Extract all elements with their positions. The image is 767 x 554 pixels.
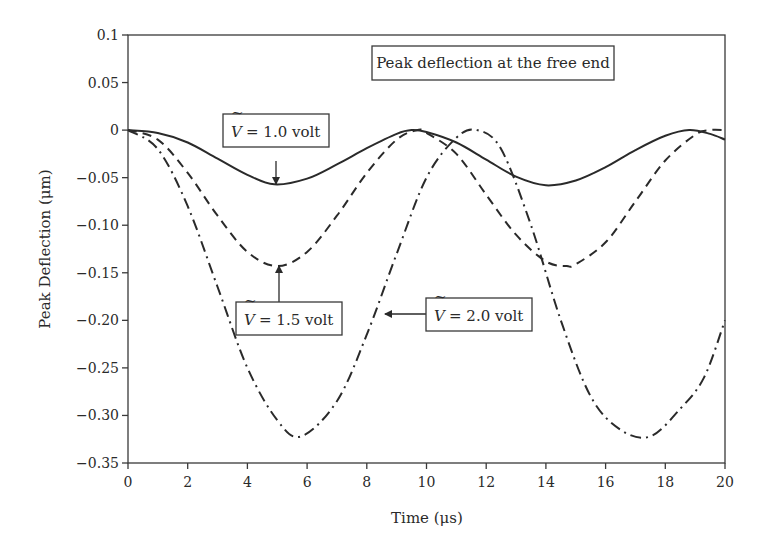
annotation-label: = 2.0 volt [449, 307, 523, 325]
x-tick-label: 4 [243, 474, 252, 490]
annotation-1-0-volt: ~ V = 1.0 volt [223, 104, 329, 184]
series-1-0-volt-line [128, 130, 725, 185]
series-2-0-volt-line [128, 129, 725, 437]
x-tick-label: 10 [418, 474, 436, 490]
deflection-chart: 0.10.050−0.05−0.10−0.15−0.20−0.25−0.30−0… [0, 0, 767, 554]
annotation-label: = 1.0 volt [246, 123, 320, 141]
x-tick-label: 8 [362, 474, 371, 490]
y-tick-label: 0 [110, 122, 119, 138]
plot-frame [128, 35, 725, 463]
x-tick-label: 18 [656, 474, 674, 490]
annotation-2-0-volt: ~ V = 2.0 volt [385, 288, 532, 331]
annotation-label: = 1.5 volt [259, 311, 333, 329]
y-tick-label: 0.1 [97, 27, 119, 43]
y-tick-label: 0.05 [88, 75, 119, 91]
y-axis: 0.10.050−0.05−0.10−0.15−0.20−0.25−0.30−0… [76, 27, 128, 471]
x-axis-label: Time (μs) [391, 509, 463, 527]
annotation-1-5-volt: ~ V = 1.5 volt [236, 266, 342, 335]
y-tick-label: −0.10 [76, 217, 119, 233]
y-tick-label: −0.20 [76, 312, 119, 328]
x-axis: 02468101214161820 [124, 463, 734, 490]
tilde-glyph: ~ [244, 292, 257, 310]
y-tick-label: −0.05 [76, 170, 119, 186]
x-tick-label: 0 [124, 474, 133, 490]
x-tick-label: 16 [597, 474, 615, 490]
y-tick-label: −0.15 [76, 265, 119, 281]
tilde-glyph: ~ [434, 288, 447, 306]
x-tick-label: 12 [477, 474, 495, 490]
x-tick-label: 14 [537, 474, 555, 490]
chart-title: Peak deflection at the free end [376, 54, 610, 72]
title-box: Peak deflection at the free end [372, 46, 614, 80]
x-tick-label: 6 [303, 474, 312, 490]
series-layer [128, 129, 725, 437]
y-tick-label: −0.25 [76, 360, 119, 376]
y-tick-label: −0.30 [76, 407, 119, 423]
y-axis-label: Peak Deflection (μm) [36, 169, 54, 328]
y-tick-label: −0.35 [76, 455, 119, 471]
x-tick-label: 20 [716, 474, 734, 490]
tilde-glyph: ~ [231, 104, 244, 122]
x-tick-label: 2 [183, 474, 192, 490]
